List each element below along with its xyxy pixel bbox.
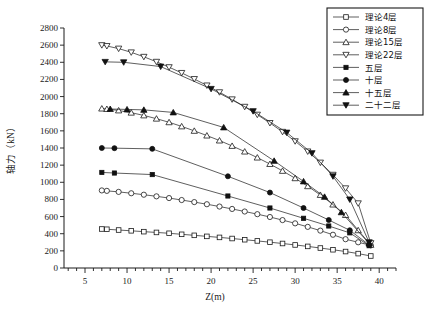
marker-open-triangle-up [204, 133, 210, 138]
marker-solid-circle [267, 190, 272, 195]
marker-solid-circle [344, 78, 349, 83]
marker-open-triangle-down [141, 54, 147, 59]
marker-open-square [268, 240, 273, 245]
marker-open-square [280, 241, 285, 246]
marker-open-circle [116, 189, 121, 194]
y-tick-label: 2400 [40, 57, 59, 67]
y-tick-label: 2000 [40, 92, 59, 102]
marker-open-square [305, 244, 310, 249]
marker-open-circle [318, 228, 323, 233]
marker-solid-triangle-up [271, 158, 277, 163]
marker-open-circle [104, 188, 109, 193]
marker-open-square [217, 235, 222, 240]
marker-solid-square [344, 65, 348, 69]
marker-open-triangle-up [191, 128, 197, 133]
marker-open-circle [305, 224, 310, 229]
marker-open-circle [154, 194, 159, 199]
marker-open-square [293, 243, 298, 248]
marker-open-circle [192, 199, 197, 204]
y-tick-label: 800 [45, 194, 59, 204]
marker-open-circle [293, 221, 298, 226]
legend-item-label: 十五层 [365, 88, 392, 98]
marker-open-square [100, 227, 105, 232]
x-tick-label: 5 [83, 276, 88, 286]
marker-solid-square [112, 171, 116, 175]
marker-solid-circle [301, 206, 306, 211]
marker-open-triangle-down [115, 46, 121, 51]
y-tick-label: 0 [54, 263, 59, 273]
axial-force-vs-depth-chart: 0200400600800100012001400160018002000220… [0, 0, 427, 311]
marker-open-circle [267, 214, 272, 219]
legend-item-label: 理论15层 [365, 37, 403, 47]
y-tick-label: 400 [45, 229, 59, 239]
marker-solid-square [301, 216, 305, 220]
marker-solid-circle [112, 146, 117, 151]
marker-open-square [230, 236, 235, 241]
x-tick-label: 10 [123, 276, 133, 286]
marker-open-square [167, 231, 172, 236]
x-tick-label: 30 [291, 276, 301, 286]
y-tick-label: 2600 [40, 40, 59, 50]
x-tick-label: 15 [165, 276, 175, 286]
marker-solid-square [150, 172, 154, 176]
marker-open-circle [204, 202, 209, 207]
marker-open-square [331, 247, 336, 252]
y-tick-label: 600 [45, 212, 59, 222]
legend-item-label: 五层 [365, 63, 383, 73]
marker-open-circle [330, 232, 335, 237]
y-tick-label: 1600 [40, 126, 59, 136]
marker-open-square [318, 246, 323, 251]
legend-item-label: 理论4层 [365, 12, 397, 22]
marker-open-triangle-up [229, 143, 235, 148]
marker-solid-triangle-up [221, 124, 227, 129]
x-tick-label: 20 [207, 276, 217, 286]
marker-open-square [344, 15, 349, 20]
marker-open-square [116, 228, 121, 233]
marker-open-triangle-up [254, 155, 260, 160]
legend-item-label: 二十二层 [365, 100, 401, 110]
x-tick-label: 40 [375, 276, 385, 286]
marker-solid-triangle-down [330, 174, 336, 179]
series-line [110, 109, 369, 244]
marker-open-square [179, 232, 184, 237]
marker-solid-square [268, 206, 272, 210]
marker-solid-circle [347, 228, 352, 233]
marker-open-square [154, 230, 159, 235]
marker-open-circle [255, 212, 260, 217]
marker-open-circle [356, 240, 361, 245]
y-tick-label: 1800 [40, 109, 59, 119]
marker-open-circle [343, 237, 348, 242]
legend: 理论4层理论8层理论15层理论22层五层十层十五层二十二层 [327, 8, 423, 115]
marker-open-square [255, 239, 260, 244]
marker-open-triangle-up [292, 175, 298, 180]
x-axis-ticks: 510152025303540 [68, 268, 396, 286]
marker-open-circle [280, 217, 285, 222]
marker-open-circle [230, 206, 235, 211]
marker-solid-circle [326, 218, 331, 223]
marker-open-circle [99, 188, 104, 193]
x-tick-label: 25 [249, 276, 259, 286]
marker-solid-circle [150, 146, 155, 151]
y-axis-title: 轴力（kN） [5, 122, 16, 174]
marker-open-circle [217, 204, 222, 209]
marker-open-triangle-down [355, 201, 361, 206]
marker-open-square [142, 229, 147, 234]
series-0 [100, 227, 374, 259]
marker-open-square [368, 254, 373, 259]
marker-open-square [343, 249, 348, 254]
y-tick-label: 2200 [40, 74, 59, 84]
y-tick-label: 200 [45, 246, 59, 256]
marker-solid-square [100, 170, 104, 174]
y-tick-label: 2800 [40, 23, 59, 33]
marker-solid-triangle-down [347, 197, 353, 202]
series-5 [99, 146, 371, 248]
marker-open-triangle-up [242, 149, 248, 154]
series-line [102, 172, 369, 245]
marker-open-square [192, 233, 197, 238]
marker-solid-circle [99, 146, 104, 151]
marker-open-circle [141, 192, 146, 197]
marker-open-circle [166, 195, 171, 200]
marker-solid-square [327, 224, 331, 228]
marker-open-circle [242, 209, 247, 214]
legend-item-label: 十层 [365, 75, 383, 85]
